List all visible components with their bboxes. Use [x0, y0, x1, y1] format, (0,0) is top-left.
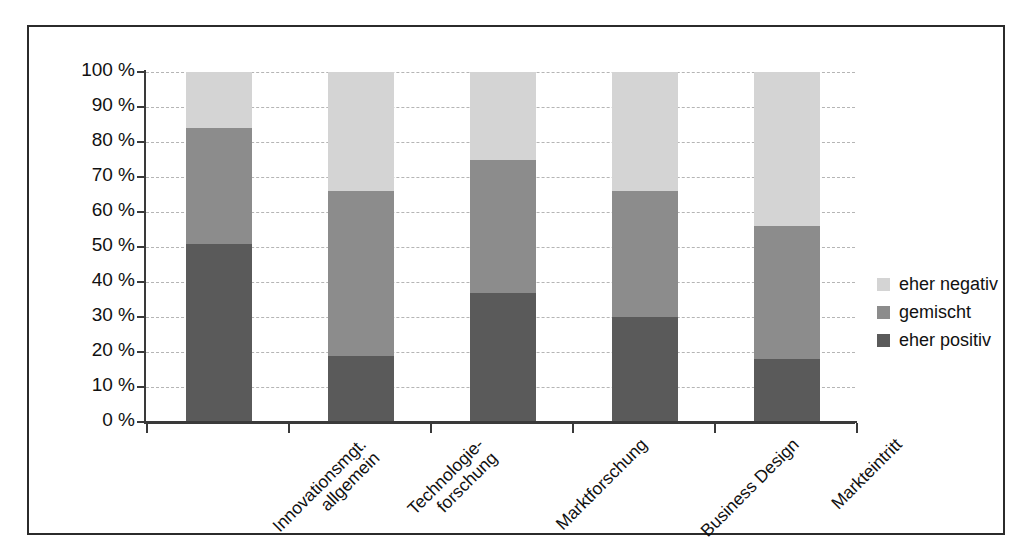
- legend-item[interactable]: eher negativ: [877, 270, 1025, 298]
- legend-swatch-icon: [877, 334, 890, 347]
- bar-segment-eher-positiv: [470, 293, 536, 423]
- x-axis-tick: [572, 423, 574, 433]
- y-axis-tick: [137, 106, 146, 108]
- y-axis-tick-label: 0 %: [61, 409, 135, 431]
- bar-segment-gemischt: [754, 226, 820, 359]
- y-axis-tick: [137, 351, 146, 353]
- x-axis-category-label: Marktforschung: [552, 435, 651, 534]
- x-axis-category-label: Technologie-forschung: [404, 435, 501, 532]
- y-axis-tick: [137, 71, 146, 73]
- legend-item[interactable]: eher positiv: [877, 326, 1025, 354]
- y-axis-tick-label: 30 %: [61, 304, 135, 326]
- x-axis-tick: [146, 423, 148, 433]
- y-axis-tick-label: 10 %: [61, 374, 135, 396]
- bar-segment-gemischt: [470, 160, 536, 293]
- x-axis-tick: [714, 423, 716, 433]
- bar-segment-gemischt: [612, 191, 678, 317]
- y-axis-tick: [137, 246, 146, 248]
- y-axis-tick-label: 100 %: [61, 59, 135, 81]
- category-label-line: Business Design: [696, 434, 802, 540]
- bar-stack: [612, 72, 678, 422]
- bar-segment-eher-negativ: [470, 72, 536, 160]
- bar-segment-eher-positiv: [186, 244, 252, 423]
- y-axis-tick: [137, 281, 146, 283]
- bar-segment-eher-positiv: [754, 359, 820, 422]
- legend-item-label: eher negativ: [899, 274, 998, 295]
- chart-frame: 100 %90 %80 %70 %60 %50 %40 %30 %20 %10 …: [27, 25, 1005, 535]
- bar-segment-eher-negativ: [612, 72, 678, 191]
- x-axis-line: [144, 421, 857, 423]
- y-axis-tick: [137, 386, 146, 388]
- legend-item[interactable]: gemischt: [877, 298, 1025, 326]
- y-axis-tick-label: 80 %: [61, 129, 135, 151]
- legend-item-label: eher positiv: [899, 330, 991, 351]
- bar-stack: [186, 72, 252, 422]
- bar-segment-eher-negativ: [186, 72, 252, 128]
- y-axis-tick: [137, 316, 146, 318]
- y-axis-tick-label: 90 %: [61, 94, 135, 116]
- y-axis-labels: 100 %90 %80 %70 %60 %50 %40 %30 %20 %10 …: [57, 27, 135, 554]
- y-axis-tick-label: 70 %: [61, 164, 135, 186]
- bar-segment-eher-positiv: [328, 356, 394, 423]
- y-axis-tick: [137, 141, 146, 143]
- x-axis-tick: [856, 423, 858, 433]
- bar-segment-eher-negativ: [754, 72, 820, 226]
- x-axis-tick: [288, 423, 290, 433]
- y-axis-tick-label: 50 %: [61, 234, 135, 256]
- category-label-line: Marktforschung: [552, 434, 651, 533]
- bar-segment-eher-negativ: [328, 72, 394, 191]
- y-axis-tick-label: 20 %: [61, 339, 135, 361]
- legend-swatch-icon: [877, 278, 890, 291]
- chart-legend: eher negativgemischteher positiv: [877, 270, 1025, 354]
- x-axis-category-label: Business Design: [697, 435, 803, 541]
- bar-segment-gemischt: [328, 191, 394, 356]
- y-axis-tick: [137, 211, 146, 213]
- legend-item-label: gemischt: [899, 302, 971, 323]
- x-axis-category-label: Markteintritt: [828, 435, 906, 513]
- bar-segment-eher-positiv: [612, 317, 678, 422]
- y-axis-tick-label: 60 %: [61, 199, 135, 221]
- bar-stack: [328, 72, 394, 422]
- category-label-line: Markteintritt: [827, 434, 906, 513]
- y-axis-tick-label: 40 %: [61, 269, 135, 291]
- plot-area: [146, 72, 855, 422]
- x-axis-category-label: Innovationsmgt.allgemein: [269, 435, 383, 549]
- x-axis-tick: [430, 423, 432, 433]
- bar-stack: [470, 72, 536, 422]
- legend-swatch-icon: [877, 306, 890, 319]
- page-canvas: 100 %90 %80 %70 %60 %50 %40 %30 %20 %10 …: [0, 0, 1025, 554]
- y-axis-tick: [137, 176, 146, 178]
- bar-stack: [754, 72, 820, 422]
- bar-segment-gemischt: [186, 128, 252, 244]
